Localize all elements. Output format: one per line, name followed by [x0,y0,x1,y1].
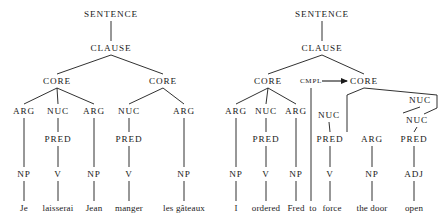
tree-node-arg: ARG [13,106,35,116]
tree-node-np: NP [365,169,379,179]
tree-node-np: NP [289,169,303,179]
tree-node-arg: ARG [285,106,307,116]
tree-edge [57,55,111,74]
tree-terminal-word: Jean [86,203,103,213]
tree-edge [236,88,268,104]
tree-terminal-word: to [309,203,316,213]
tree-edge [57,88,94,104]
tree-node-pred: PRED [252,134,279,144]
tree-edge [24,88,57,104]
tree-node-pred: PRED [115,134,142,144]
tree-node-np: NP [17,169,31,179]
tree-terminal-word: Fred [287,203,304,213]
tree-node-np: NP [229,169,243,179]
tree-node-v: V [125,169,133,179]
tree-node-sentence: SENTENCE [295,9,349,19]
tree-node-arg: ARG [225,106,247,116]
tree-node-v: V [54,169,62,179]
syntax-tree-figure: SENTENCECLAUSECORECOREARGNUCARGNUCARGPRE… [0,0,444,222]
tree-node-v: V [262,169,270,179]
tree-terminal-word: ordered [252,203,281,213]
tree-terminal-word: open [405,203,423,213]
tree-node-clause: CLAUSE [90,43,131,53]
tree-terminal-word: manger [115,203,143,213]
tree-node-pred: PRED [44,134,71,144]
tree-terminal-word: laisserai [43,203,74,213]
tree-node-adj: ADJ [404,169,424,179]
tree-edge [163,88,184,104]
tree-node-v: V [326,169,334,179]
tree-node-arg: ARG [361,134,383,144]
tree-node-core: CORE [149,76,177,86]
tree-node-core: CORE [350,76,378,86]
tree-edge [266,88,268,104]
tree-edge [111,55,163,74]
tree-node-arg: ARG [83,106,105,116]
tree-node-cmpl: CMPL [300,77,322,85]
tree-node-core: CORE [254,76,282,86]
tree-edge [414,127,417,132]
tree-node-nuc: NUC [406,115,428,125]
tree-node-nuc: NUC [255,106,277,116]
tree-terminal-word: les gâteaux [163,203,205,213]
tree-edge [57,88,58,104]
tree-edge [403,107,420,113]
tree-node-nuc: NUC [47,106,69,116]
tree-node-nuc: NUC [409,95,431,105]
tree-edge [364,88,437,95]
tree-node-sentence: SENTENCE [84,9,138,19]
tree-node-nuc: NUC [318,110,340,120]
tree-edge [129,88,163,104]
tree-terminal-word: force [322,203,341,213]
tree-terminal-word: I [234,203,237,213]
tree-node-np: NP [177,169,191,179]
tree-node-arg: ARG [173,106,195,116]
tree-terminal-word: Je [20,203,28,213]
tree-node-clause: CLAUSE [301,43,342,53]
tree-node-core: CORE [43,76,71,86]
tree-edge [268,88,296,104]
tree-terminal-word: the door [357,203,388,213]
tree-edge [424,108,437,114]
tree-edge [322,55,364,74]
tree-edge [268,55,322,74]
tree-edge [329,122,330,132]
tree-node-nuc: NUC [118,106,140,116]
tree-edge [347,88,364,95]
tree-node-np: NP [87,169,101,179]
tree-node-pred: PRED [400,134,427,144]
tree-node-pred: PRED [316,134,343,144]
